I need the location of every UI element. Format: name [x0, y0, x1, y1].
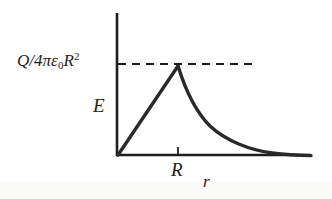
- peak-value-label: Q/4πε0R2: [17, 51, 80, 71]
- x-axis-label: r: [203, 173, 210, 190]
- epsilon-symbol: ε: [51, 51, 58, 70]
- curve-outside-inverse-square: [178, 66, 311, 156]
- electric-field-vs-radius-figure: Q/4πε0R2 E R r: [0, 0, 332, 199]
- curve-inside-linear: [118, 66, 178, 155]
- x-axis-tick-label-R: R: [171, 160, 183, 179]
- radius-symbol: R: [63, 51, 73, 70]
- plot-canvas: [0, 0, 332, 199]
- pi-symbol: π: [43, 51, 52, 70]
- radius-exponent: 2: [74, 50, 80, 62]
- y-axis-label: E: [93, 96, 105, 115]
- peak-value-prefix: Q/4: [17, 51, 43, 70]
